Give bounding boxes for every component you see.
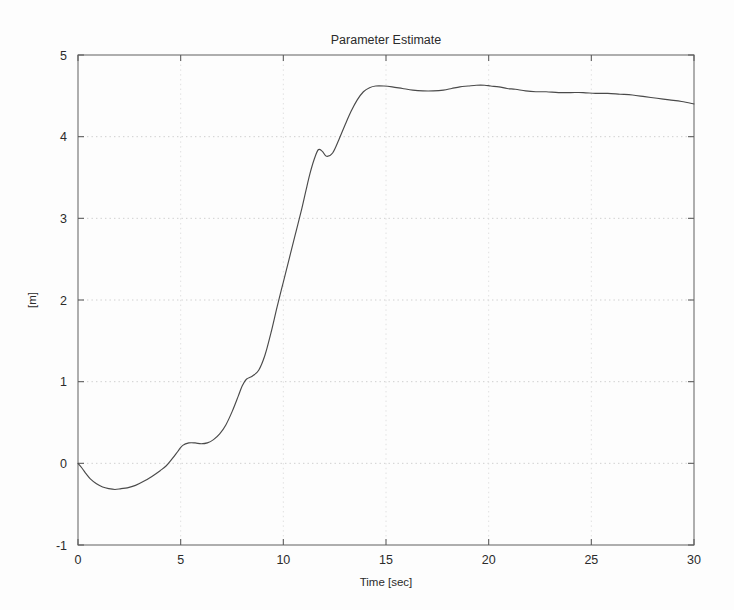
y-tick-label-4: 4	[60, 130, 67, 144]
y-axis-label: [m]	[26, 292, 38, 308]
x-tick-label-20: 20	[482, 553, 496, 567]
y-tick-label--1: -1	[56, 539, 67, 553]
x-axis-label: Time [sec]	[360, 576, 413, 588]
x-tick-label-10: 10	[276, 553, 290, 567]
y-tick-label-0: 0	[60, 457, 67, 471]
figure-canvas: 051015202530 -1012345 Parameter Estimate…	[0, 0, 734, 610]
x-tick-label-25: 25	[584, 553, 598, 567]
y-tick-label-2: 2	[60, 294, 67, 308]
y-tick-label-5: 5	[60, 49, 67, 63]
vertical-gridlines	[181, 55, 592, 545]
x-axis-tick-labels: 051015202530	[75, 553, 701, 567]
y-tick-label-1: 1	[60, 375, 67, 389]
data-series-line	[78, 85, 694, 489]
x-tick-label-5: 5	[177, 553, 184, 567]
y-tick-label-3: 3	[60, 212, 67, 226]
x-tick-label-30: 30	[687, 553, 701, 567]
chart-title: Parameter Estimate	[331, 33, 442, 47]
y-axis-tick-labels: -1012345	[56, 49, 67, 553]
x-tick-label-15: 15	[379, 553, 393, 567]
x-tick-label-0: 0	[75, 553, 82, 567]
chart-plot: 051015202530 -1012345 Parameter Estimate…	[0, 0, 734, 610]
